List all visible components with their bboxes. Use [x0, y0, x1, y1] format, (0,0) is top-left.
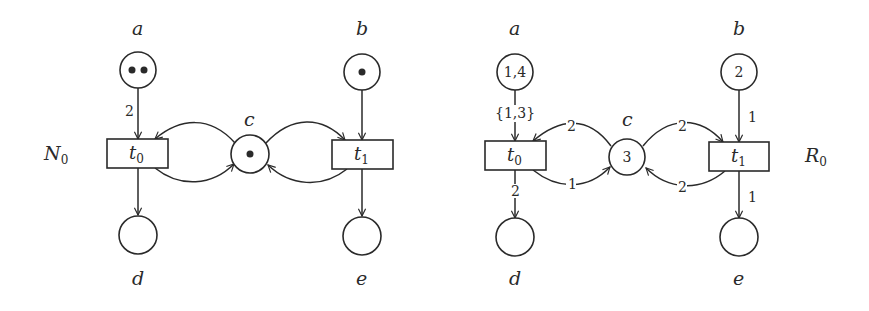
- arc-weight-a-t0: {1,3}: [495, 105, 535, 121]
- token-icon: [359, 69, 366, 76]
- place-value-a: 1,4: [504, 64, 526, 80]
- place-label-a: a: [132, 17, 143, 39]
- token-icon: [129, 67, 136, 74]
- place-label-d: d: [509, 267, 521, 289]
- place-label-d: d: [132, 267, 144, 289]
- net-name-n0: N0: [43, 142, 68, 167]
- place-a: [120, 52, 156, 88]
- place-d: [496, 218, 534, 256]
- right-net: {1,3} 2 1 2 1 2 2 1 a 1,4 b 2 c 3 d e t0: [485, 17, 827, 289]
- place-label-b: b: [733, 17, 745, 39]
- arc-weight-t0-d: 2: [511, 183, 520, 199]
- token-icon: [247, 151, 254, 158]
- place-d: [119, 216, 157, 254]
- place-label-e: e: [733, 267, 744, 289]
- place-label-c: c: [244, 108, 255, 130]
- place-value-b: 2: [735, 64, 744, 80]
- place-e: [343, 217, 381, 255]
- petri-net-figure: 2 a b c d e t0 t1 N0: [0, 0, 869, 311]
- token-icon: [141, 67, 148, 74]
- arc-weight-b-t1: 1: [748, 109, 757, 125]
- place-label-c: c: [622, 108, 633, 130]
- place-label-e: e: [356, 267, 367, 289]
- place-value-c: 3: [623, 149, 632, 165]
- arc-weight-a-t0: 2: [125, 103, 134, 119]
- left-net: 2 a b c d e t0 t1 N0: [43, 17, 393, 289]
- arc-weight-c-t0: 2: [567, 118, 576, 134]
- arc-weight-t0-c: 1: [568, 176, 577, 192]
- place-e: [720, 218, 758, 256]
- arc-weight-t1-c: 2: [678, 179, 687, 195]
- arc-weight-c-t1: 2: [678, 118, 687, 134]
- place-label-b: b: [356, 17, 368, 39]
- diagram-svg: 2 a b c d e t0 t1 N0: [0, 0, 869, 311]
- place-label-a: a: [509, 17, 520, 39]
- net-name-r0: R0: [804, 144, 827, 169]
- arc-weight-t1-e: 1: [748, 189, 757, 205]
